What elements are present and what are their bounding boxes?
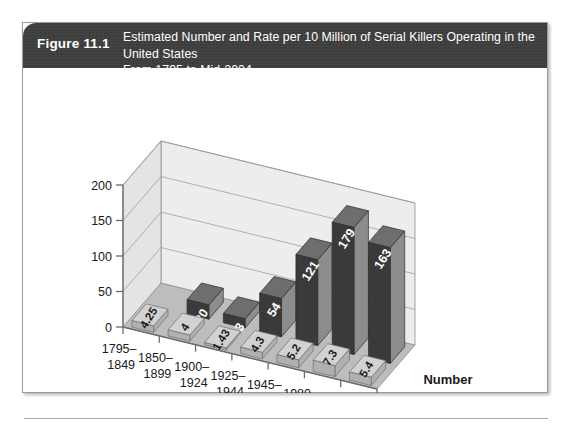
x-label-4-line1: 1945– <box>247 378 282 392</box>
legend-label-number: Number <box>423 372 472 387</box>
y-tick-label-150: 150 <box>91 214 112 228</box>
x-label-0-line2: 1849 <box>107 358 135 372</box>
figure-title-line-2: From 1795 to Mid-2004 <box>123 62 539 79</box>
x-label-5-line1: 1980– <box>283 387 318 393</box>
figure-number-label: Figure 11.1 <box>37 36 110 51</box>
figure-box: Figure 11.1 Estimated Number and Rate pe… <box>22 22 548 393</box>
figure-title: Estimated Number and Rate per 10 Million… <box>123 29 539 79</box>
bar-chart-3d: 050100150200 4.25204131.43544.31215.2179… <box>23 68 549 393</box>
x-label-2-line1: 1900– <box>174 360 209 374</box>
y-tick-label-100: 100 <box>91 250 112 264</box>
y-tick-label-50: 50 <box>98 285 112 299</box>
figure-header: Figure 11.1 Estimated Number and Rate pe… <box>23 23 547 68</box>
chart-legend: NumberRate <box>401 372 473 393</box>
x-label-2-line2: 1924 <box>180 376 208 390</box>
x-label-1-line2: 1899 <box>144 367 172 381</box>
figure-title-line-1: Estimated Number and Rate per 10 Million… <box>123 29 539 62</box>
y-tick-label-200: 200 <box>91 179 112 193</box>
y-tick-label-0: 0 <box>105 321 112 335</box>
chart-area: 050100150200 4.25204131.43544.31215.2179… <box>23 68 547 393</box>
x-label-3-line2: 1944 <box>216 385 244 394</box>
number-bar-side-6 <box>390 231 404 363</box>
bottom-divider <box>24 418 548 419</box>
x-label-3-line1: 1925– <box>211 369 246 383</box>
chart-y-axis: 050100150200 <box>91 179 123 335</box>
number-bar-side-4 <box>318 243 332 346</box>
x-label-0-line1: 1795– <box>102 342 137 356</box>
x-label-1-line1: 1850– <box>138 351 173 365</box>
clipped-top-text: United States From 1795 to Mid-2004 <box>30 0 280 6</box>
